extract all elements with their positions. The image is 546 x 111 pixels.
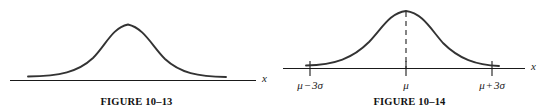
x-axis-label: x bbox=[531, 61, 536, 72]
mu-glyph: μ bbox=[297, 79, 303, 91]
figure-10-13-panel: x FIGURE 10–13 bbox=[0, 0, 273, 111]
three-sigma-glyph: 3σ bbox=[312, 79, 323, 91]
minus-operator: − bbox=[303, 79, 312, 91]
tick-label-minus-3-sigma: μ−3σ bbox=[297, 80, 323, 91]
tick-label-plus-3-sigma: μ+3σ bbox=[479, 80, 505, 91]
normal-curve bbox=[28, 25, 226, 78]
tick-label-mu: μ bbox=[403, 80, 409, 91]
figure-10-13-plot bbox=[0, 0, 273, 95]
figure-10-14-panel: x μ−3σ μ μ+3σ FIGURE 10–14 bbox=[273, 0, 546, 111]
mu-glyph: μ bbox=[403, 79, 409, 91]
figure-pair-page: x FIGURE 10–13 x μ−3σ μ μ+3σ FIGURE 10–1 bbox=[0, 0, 546, 111]
figure-10-13-caption: FIGURE 10–13 bbox=[0, 96, 273, 107]
mu-glyph: μ bbox=[479, 79, 485, 91]
figure-10-14-caption: FIGURE 10–14 bbox=[273, 96, 546, 107]
three-sigma-glyph: 3σ bbox=[494, 79, 505, 91]
normal-curve bbox=[306, 11, 499, 66]
x-axis-label: x bbox=[262, 73, 267, 84]
plus-operator: + bbox=[485, 79, 494, 91]
